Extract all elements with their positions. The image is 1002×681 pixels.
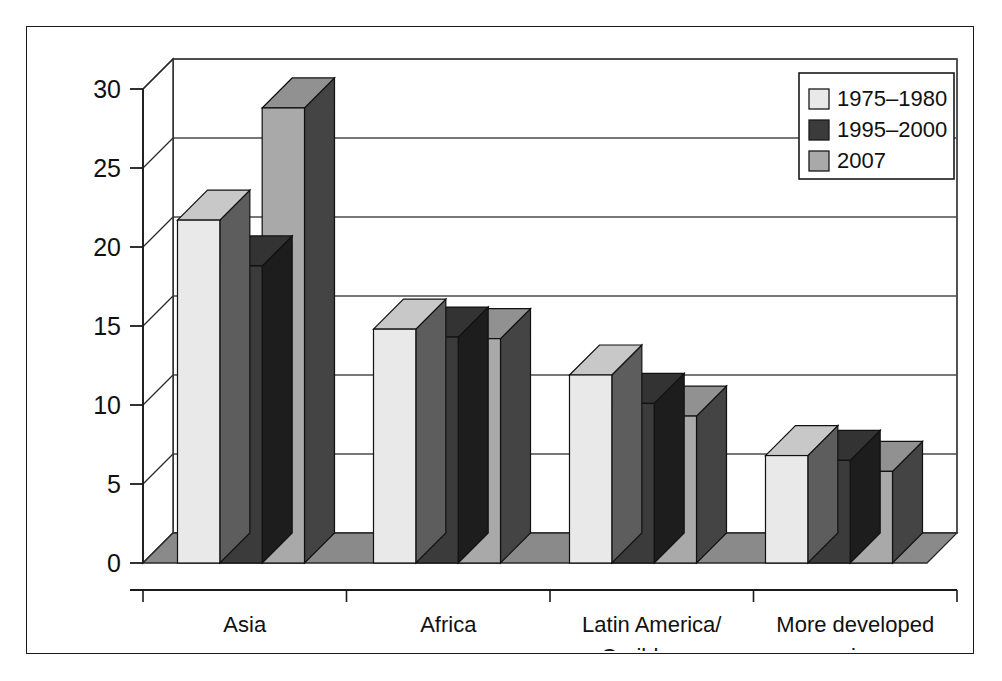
y-tick-label-10: 10 bbox=[93, 391, 121, 419]
y-tick-label-30: 30 bbox=[93, 75, 121, 103]
bar-3-0 bbox=[765, 426, 837, 563]
legend-swatch-2 bbox=[809, 151, 829, 171]
bar-1-0 bbox=[373, 299, 445, 563]
y-tick-label-20: 20 bbox=[93, 233, 121, 261]
x-category-label-0: Asia bbox=[223, 612, 267, 637]
bar-front-face bbox=[569, 375, 611, 563]
x-category-label-3-line1: regions bbox=[819, 644, 891, 651]
bar-side-face bbox=[458, 307, 488, 563]
x-category-label-2-line1: Caribbean bbox=[601, 644, 703, 651]
bar-side-face bbox=[697, 386, 727, 563]
bar-front-face bbox=[765, 456, 807, 563]
bar-side-face bbox=[501, 309, 531, 563]
bar-front-face bbox=[177, 220, 219, 563]
bar-front-face bbox=[373, 329, 415, 563]
bar-side-face bbox=[416, 299, 446, 563]
legend-swatch-0 bbox=[809, 89, 829, 109]
bar-side-face bbox=[305, 78, 335, 563]
y-tick-label-0: 0 bbox=[107, 549, 121, 577]
y-tick-label-5: 5 bbox=[107, 470, 121, 498]
x-category-label-3-line0: More developed bbox=[776, 612, 934, 637]
chart-figure: 051015202530AsiaAfricaLatin America/Cari… bbox=[0, 0, 1002, 681]
bar-side-face bbox=[262, 236, 292, 563]
x-category-label-1: Africa bbox=[420, 612, 477, 637]
legend-label-0: 1975–1980 bbox=[837, 86, 947, 111]
legend-label-1: 1995–2000 bbox=[837, 117, 947, 142]
legend-swatch-1 bbox=[809, 120, 829, 140]
figure-border: 051015202530AsiaAfricaLatin America/Cari… bbox=[26, 26, 974, 654]
bar-side-face bbox=[654, 373, 684, 563]
bar-side-face bbox=[612, 345, 642, 563]
y-tick-label-25: 25 bbox=[93, 154, 121, 182]
bar-2-0 bbox=[569, 345, 641, 563]
bar-0-0 bbox=[177, 190, 249, 563]
bar-chart: 051015202530AsiaAfricaLatin America/Cari… bbox=[27, 27, 971, 651]
bar-side-face bbox=[220, 190, 250, 563]
y-tick-label-15: 15 bbox=[93, 312, 121, 340]
x-category-label-2-line0: Latin America/ bbox=[582, 612, 722, 637]
legend-label-2: 2007 bbox=[837, 148, 886, 173]
